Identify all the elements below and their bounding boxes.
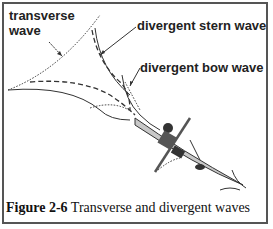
- transverse-wave-label: transverse wave: [9, 8, 75, 38]
- divergent-stern-wave-label: divergent stern wave: [137, 18, 266, 33]
- transverse-label-line2: wave: [9, 23, 75, 38]
- transverse-label-line1: transverse: [9, 8, 75, 23]
- divergent-bow-wave-label: divergent bow wave: [140, 60, 264, 75]
- figure-caption-text: Transverse and divergent waves: [71, 200, 250, 215]
- figure-number: Figure 2-6: [6, 200, 68, 215]
- figure-caption: Figure 2-6 Transverse and divergent wave…: [6, 200, 250, 216]
